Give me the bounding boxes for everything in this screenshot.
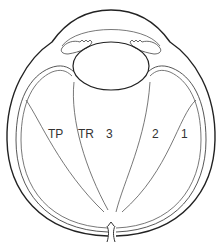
boundary-3 <box>116 82 150 212</box>
choroid-layer <box>16 66 206 232</box>
label-zone-1: 1 <box>181 128 188 140</box>
inner-cornea <box>62 30 160 47</box>
label-zone-2: 2 <box>152 128 159 140</box>
boundary-tr <box>73 82 108 210</box>
label-zone-3: 3 <box>106 128 113 140</box>
optic-nerve <box>107 222 115 242</box>
retina-layer <box>21 70 201 228</box>
outer-sclera <box>7 10 215 236</box>
label-tr: TR <box>78 128 94 140</box>
lens <box>73 42 149 90</box>
label-tp: TP <box>48 128 63 140</box>
eye-diagram <box>0 0 222 246</box>
